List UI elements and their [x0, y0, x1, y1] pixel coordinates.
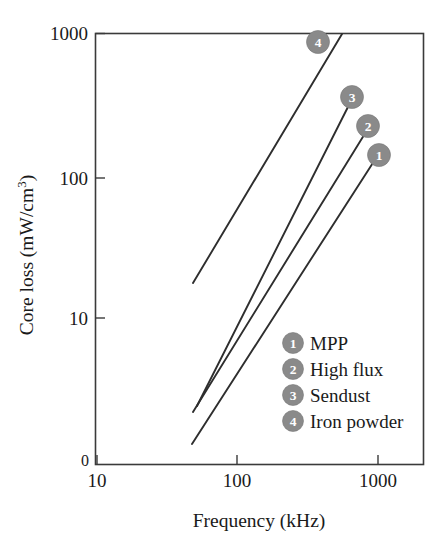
marker-number-1: 1 [376, 148, 383, 163]
legend-label-sendust: Sendust [310, 385, 371, 406]
x-tick-label-10: 10 [88, 470, 107, 491]
series-marker-sendust: 3 [341, 86, 364, 109]
series-marker-mpp: 1 [368, 144, 391, 167]
plot-frame [96, 34, 424, 465]
svg-text:Core loss (mW/cm3): Core loss (mW/cm3) [14, 175, 38, 335]
y-axis-title: Core loss (mW/cm3) [14, 175, 38, 335]
y-axis-title-suffix: ) [16, 175, 38, 182]
chart-figure: 1000 100 10 0 10 100 1000 Frequency (kHz… [0, 0, 445, 554]
marker-number-4: 4 [315, 35, 322, 50]
chart-legend: 1 MPP 2 High flux 3 Sendust 4 Iron powde… [283, 333, 405, 433]
legend-item-mpp: 1 MPP [283, 333, 349, 355]
y-axis-title-main: Core loss (mW/cm [16, 188, 38, 335]
legend-label-iron-powder: Iron powder [310, 411, 404, 432]
x-tick-label-1000: 1000 [359, 470, 397, 491]
x-axis-title: Frequency (kHz) [193, 510, 326, 532]
y-tick-label-100: 100 [60, 168, 89, 189]
legend-marker-number-4: 4 [290, 414, 297, 429]
legend-item-iron-powder: 4 Iron powder [283, 411, 405, 433]
series-marker-high-flux: 2 [357, 115, 380, 138]
series-marker-iron-powder: 4 [307, 31, 330, 54]
x-axis-ticks [97, 455, 378, 465]
y-tick-label-1000: 1000 [50, 23, 88, 44]
legend-item-high-flux: 2 High flux [283, 359, 384, 381]
y-tick-label-10: 10 [69, 308, 88, 329]
legend-marker-number-3: 3 [290, 388, 297, 403]
y-axis-ticks [96, 34, 106, 319]
x-tick-label-100: 100 [223, 470, 252, 491]
marker-number-2: 2 [365, 119, 372, 134]
legend-item-sendust: 3 Sendust [283, 385, 371, 407]
marker-number-3: 3 [349, 90, 356, 105]
legend-marker-number-2: 2 [290, 362, 297, 377]
legend-label-high-flux: High flux [310, 359, 384, 380]
legend-label-mpp: MPP [310, 333, 348, 354]
core-loss-vs-frequency-chart: 1000 100 10 0 10 100 1000 Frequency (kHz… [0, 0, 445, 554]
legend-marker-number-1: 1 [290, 336, 297, 351]
origin-zero-label: 0 [81, 452, 89, 469]
